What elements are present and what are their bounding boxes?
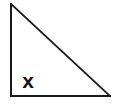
geometry-figure: x — [0, 0, 115, 106]
angle-label-x: x — [17, 70, 39, 92]
